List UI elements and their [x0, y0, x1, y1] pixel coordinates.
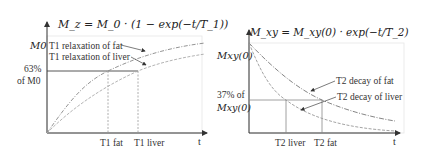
fat-curve-label: T1 relaxation of fat [49, 41, 123, 51]
threshold-label-line2: of M0 [17, 76, 41, 86]
liver-curve-label: T1 relaxation of liver [49, 52, 131, 62]
threshold-label-line2: Mxy(0) [216, 102, 251, 113]
threshold-label-line1: 37% of [217, 90, 246, 100]
t1-relaxation-chart: M_z = M_0 · (1 − exp(−t/T_1)) M0 T1 rela… [17, 18, 228, 148]
xtick-t2-fat: T2 fat [314, 138, 337, 148]
xtick-t1-fat: T1 fat [100, 138, 123, 148]
xtick-t1-liver: T1 liver [134, 138, 165, 148]
t1-equation-title: M_z = M_0 · (1 − exp(−t/T_1)) [57, 18, 228, 31]
threshold-label-line1: 63% [24, 64, 42, 74]
diagram-canvas: M_z = M_0 · (1 − exp(−t/T_1)) M0 T1 rela… [0, 0, 421, 156]
m0-label: M0 [29, 40, 47, 51]
x-axis-label: t [393, 136, 396, 147]
t1-liver-curve [47, 54, 205, 133]
mxy0-label: Mxy(0) [216, 50, 253, 61]
liver-curve-label: T2 decay of liver [337, 92, 403, 102]
x-axis-label: t [198, 136, 201, 147]
t2-equation-title: M_xy = M_xy(0) · exp(−t/T_2) [249, 26, 409, 39]
t2-decay-chart: M_xy = M_xy(0) · exp(−t/T_2) Mxy(0) T2 d… [216, 26, 409, 148]
xtick-t2-liver: T2 liver [275, 138, 306, 148]
fat-curve-label: T2 decay of fat [336, 76, 394, 86]
